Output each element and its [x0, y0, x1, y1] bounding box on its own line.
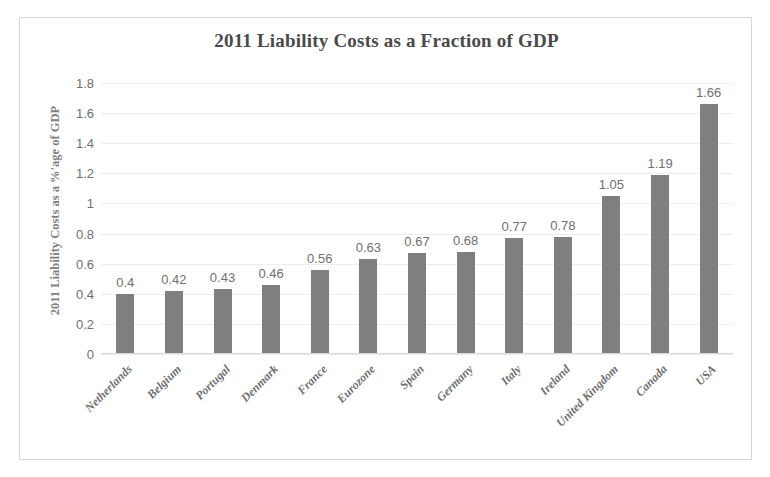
bar-group: 1.19Canada: [636, 83, 685, 354]
x-axis-category-label: Denmark: [238, 362, 282, 406]
y-axis-tick-label: 0.2: [76, 316, 94, 331]
bar[interactable]: [505, 238, 523, 354]
bar-value-label: 0.46: [258, 266, 283, 281]
bar-group: 1.66USA: [684, 83, 733, 354]
y-axis-tick-label: 0.6: [76, 256, 94, 271]
gridline: [101, 354, 733, 355]
x-axis-line: [101, 353, 733, 354]
y-axis-title: 2011 Liability Costs as a %'age of GDP: [48, 71, 63, 351]
bar-value-label: 1.05: [599, 177, 624, 192]
bar[interactable]: [165, 291, 183, 354]
x-axis-category-label: Eurozone: [334, 362, 379, 407]
y-axis-tick-label: 1.2: [76, 166, 94, 181]
bar[interactable]: [408, 253, 426, 354]
x-axis-category-label: France: [294, 362, 330, 398]
bar-group: 1.05United Kingdom: [587, 83, 636, 354]
bar-value-label: 0.78: [550, 218, 575, 233]
bar-value-label: 0.63: [356, 240, 381, 255]
bar[interactable]: [214, 289, 232, 354]
bar-value-label: 1.19: [647, 156, 672, 171]
bar-group: 0.43Portugal: [198, 83, 247, 354]
x-axis-category-label: USA: [692, 362, 719, 389]
x-axis-category-label: Ireland: [537, 362, 574, 399]
bar-value-label: 0.43: [210, 270, 235, 285]
y-axis-tick-label: 1.6: [76, 106, 94, 121]
bar-value-label: 0.56: [307, 251, 332, 266]
x-axis-category-label: Netherlands: [82, 362, 136, 416]
bar-group: 0.46Denmark: [247, 83, 296, 354]
y-axis-tick-label: 1.4: [76, 136, 94, 151]
chart-frame: 2011 Liability Costs as a Fraction of GD…: [19, 17, 752, 460]
bar-group: 0.78Ireland: [539, 83, 588, 354]
bar-value-label: 1.66: [696, 85, 721, 100]
x-axis-category-label: Italy: [498, 362, 525, 389]
bar[interactable]: [700, 104, 718, 354]
y-axis-tick-label: 0: [87, 347, 94, 362]
bar-value-label: 0.77: [502, 219, 527, 234]
bar-group: 0.77Italy: [490, 83, 539, 354]
bar-group: 0.67Spain: [393, 83, 442, 354]
x-axis-category-label: Belgium: [144, 362, 184, 402]
bar[interactable]: [457, 252, 475, 354]
y-axis-tick-label: 1.8: [76, 76, 94, 91]
bar-value-label: 0.67: [404, 234, 429, 249]
bar[interactable]: [554, 237, 572, 354]
bar-group: 0.56France: [295, 83, 344, 354]
bar-group: 0.42Belgium: [150, 83, 199, 354]
bar-value-label: 0.68: [453, 233, 478, 248]
y-axis-tick-label: 1: [87, 196, 94, 211]
bar-value-label: 0.4: [116, 275, 134, 290]
bar-group: 0.4Netherlands: [101, 83, 150, 354]
bar[interactable]: [311, 270, 329, 354]
bar-series: 0.4Netherlands0.42Belgium0.43Portugal0.4…: [101, 83, 733, 354]
x-axis-category-label: Spain: [397, 362, 428, 393]
bar-group: 0.68Germany: [441, 83, 490, 354]
bar-value-label: 0.42: [161, 272, 186, 287]
bar[interactable]: [651, 175, 669, 354]
bar[interactable]: [262, 285, 280, 354]
x-axis-category-label: Canada: [633, 362, 671, 400]
bar[interactable]: [602, 196, 620, 354]
y-axis-tick-label: 0.4: [76, 286, 94, 301]
y-axis-tick-label: 0.8: [76, 226, 94, 241]
bar-group: 0.63Eurozone: [344, 83, 393, 354]
x-axis-category-label: Portugal: [192, 362, 233, 403]
bar[interactable]: [116, 294, 134, 354]
bar[interactable]: [359, 259, 377, 354]
plot-area: 00.20.40.60.811.21.41.61.8 0.4Netherland…: [101, 83, 733, 354]
chart-title: 2011 Liability Costs as a Fraction of GD…: [20, 30, 753, 52]
x-axis-category-label: Germany: [433, 362, 476, 405]
